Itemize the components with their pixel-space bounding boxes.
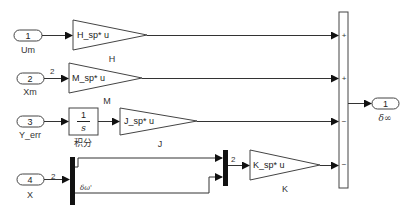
integrator-denominator: s — [81, 124, 86, 133]
integrator-label: 积分 — [74, 139, 92, 148]
inport-2-signal-width: 2 — [50, 68, 54, 76]
sum-sign-1: + — [342, 32, 347, 40]
outport-1-number: 1 — [383, 100, 388, 109]
mux-block[interactable] — [223, 150, 228, 186]
integrator-numerator: 1 — [81, 111, 86, 120]
inport-1-label: Um — [21, 46, 35, 55]
inport-4-signal-width: 2 — [51, 173, 55, 181]
inport-4-label: X — [27, 191, 33, 200]
mux-output-width: 2 — [231, 156, 235, 164]
inport-2-label: Xm — [23, 88, 37, 97]
sum-sign-4: − — [342, 161, 347, 169]
diagram-canvas — [0, 0, 415, 217]
gain-j-expression: J_sp* u — [124, 117, 154, 126]
gain-m-label: M — [103, 97, 111, 106]
inport-3-number: 3 — [27, 118, 32, 127]
gain-k-label: K — [282, 185, 288, 194]
inport-4-number: 4 — [27, 176, 32, 185]
gain-k-expression: K_sp* u — [253, 161, 285, 170]
gain-j-label: J — [158, 140, 163, 149]
gain-m-expression: M_sp* u — [72, 74, 105, 83]
inport-2-number: 2 — [27, 75, 32, 84]
outport-1-label: δ∞ — [379, 114, 392, 123]
demux-block[interactable] — [70, 157, 75, 205]
gain-h-expression: H_sp* u — [77, 31, 109, 40]
sum-sign-3: − — [342, 118, 347, 126]
gain-h-label: H — [109, 55, 116, 64]
demux-lower-signal-label: δω' — [80, 185, 92, 192]
inport-1-number: 1 — [25, 32, 30, 41]
inport-3-label: Y_err — [19, 131, 41, 140]
sum-sign-2: + — [342, 75, 347, 83]
